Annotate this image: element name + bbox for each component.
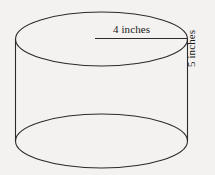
cylinder-figure: 4 inches 5 inches <box>0 0 215 175</box>
height-label: 5 inches <box>186 30 197 67</box>
cylinder-bottom-ellipse <box>16 114 188 168</box>
diameter-label: 4 inches <box>113 24 150 35</box>
cylinder-drawing <box>0 0 215 175</box>
